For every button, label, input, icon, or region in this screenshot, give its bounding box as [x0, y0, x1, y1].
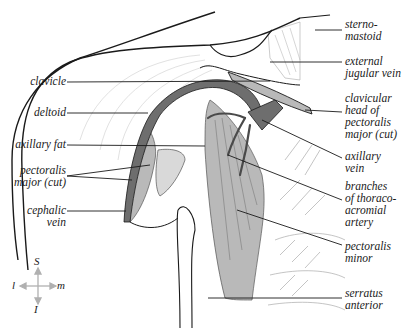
label-axillary-vein: axillary vein — [345, 150, 381, 174]
label-deltoid: deltoid — [8, 106, 66, 118]
serratus-anterior-ribs — [268, 140, 345, 310]
label-external-jugular-vein: external jugular vein — [345, 55, 401, 79]
label-cephalic-vein: cephalic vein — [0, 204, 66, 228]
sternomastoid-muscle — [268, 15, 330, 80]
label-sternomastoid: sterno- mastoid — [345, 18, 381, 42]
label-axillary-fat: axillary fat — [0, 138, 66, 150]
label-clavicle: clavicle — [8, 75, 66, 87]
orientation-inferior: I — [34, 303, 38, 315]
label-branches-thoracoacromial-artery: branches of thoraco- acromial artery — [345, 180, 396, 228]
label-clavicular-head-pectoralis-major: clavicular head of pectoralis major (cut… — [345, 92, 397, 140]
label-pectoralis-minor: pectoralis minor — [345, 240, 391, 264]
orientation-medial: m — [57, 279, 65, 291]
orientation-superior: S — [34, 255, 40, 267]
humerus-bone — [130, 207, 195, 328]
label-serratus-anterior: serratus anterior — [345, 287, 383, 311]
orientation-compass — [20, 268, 56, 304]
orientation-lateral: l — [12, 279, 15, 291]
label-pectoralis-major-cut: pectoralis major (cut) — [0, 164, 66, 188]
pectoralis-minor-muscle — [205, 100, 264, 300]
